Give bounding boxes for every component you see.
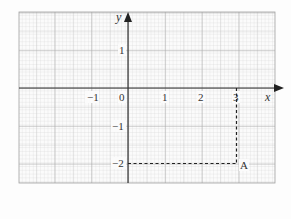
y-axis-label: y [115,10,122,24]
coordinate-diagram: y x −1 0 1 2 3 1 −1 −2 A [0,0,291,219]
y-tick-1: 1 [119,44,125,56]
y-tick-neg2: −2 [112,157,124,169]
point-a-label: A [240,159,248,171]
x-tick-2: 2 [198,91,204,103]
x-axis-label: x [264,90,271,104]
y-tick-neg1: −1 [112,120,124,132]
x-arrow-icon [274,84,284,92]
x-tick-neg1: −1 [87,91,99,103]
x-tick-0: 0 [119,91,125,103]
x-tick-1: 1 [162,91,168,103]
